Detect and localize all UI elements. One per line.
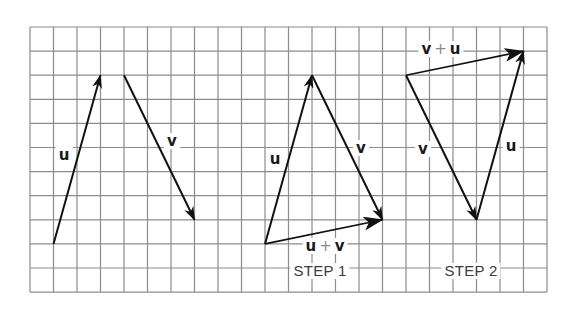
step-1-caption: STEP 1: [290, 263, 349, 279]
label-u-plus-v: u+v: [302, 238, 347, 254]
sum-left: u: [305, 237, 316, 255]
label-v-step2: v: [415, 141, 431, 157]
sum-right: u: [450, 40, 461, 58]
label-v-step1: v: [353, 140, 369, 156]
label-v-separate: v: [164, 133, 180, 149]
vector-addition-diagram: u v u v u+v STEP 1 v u v+u STEP 2: [0, 0, 568, 310]
label-u-step1: u: [267, 151, 284, 167]
label-v-plus-u: v+u: [418, 41, 463, 57]
step-2-caption: STEP 2: [441, 263, 500, 279]
label-u-separate: u: [56, 147, 73, 163]
sum-right: v: [335, 237, 345, 255]
sum-left: v: [421, 40, 431, 58]
label-u-step2: u: [503, 138, 520, 154]
plus-sign: +: [431, 40, 450, 58]
plus-sign: +: [316, 237, 335, 255]
